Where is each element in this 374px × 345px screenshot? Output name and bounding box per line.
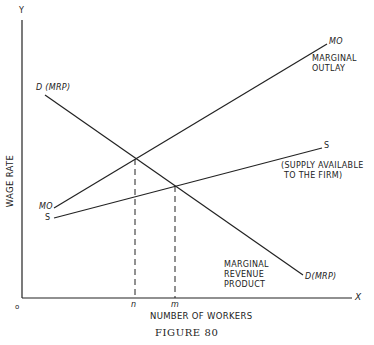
y-axis-letter: Y (19, 6, 24, 16)
tick-label-m: m (171, 300, 179, 310)
x-axis-label: NUMBER OF WORKERS (150, 311, 252, 321)
d-mrp-start-label: D (MRP) (36, 83, 70, 93)
d-mrp-end-label: D(MRP) (305, 272, 337, 282)
marginal-outlay-line (54, 44, 327, 208)
s-desc-2: TO THE FIRM) (284, 171, 342, 181)
s-start-label: S (45, 213, 50, 223)
x-axis-letter: X (355, 292, 361, 302)
tick-label-n: n (131, 300, 136, 310)
mrp-desc-3: PRODUCT (224, 280, 265, 290)
demand-mrp-line (45, 95, 303, 275)
mrp-desc-1: MARGINAL (224, 260, 269, 270)
s-desc-1: (SUPPLY AVAILABLE (281, 161, 364, 171)
s-end-label: S (324, 141, 329, 151)
mo-desc-2: OUTLAY (312, 64, 345, 74)
origin-label: o (15, 302, 20, 312)
figure-caption: FIGURE 80 (155, 327, 218, 338)
y-axis-label: WAGE RATE (5, 155, 15, 207)
mo-start-label: MO (39, 202, 53, 212)
supply-line (54, 148, 322, 218)
mrp-desc-2: REVENUE (224, 270, 264, 280)
mo-desc-1: MARGINAL (312, 54, 357, 64)
mo-end-label: MO (329, 37, 343, 47)
